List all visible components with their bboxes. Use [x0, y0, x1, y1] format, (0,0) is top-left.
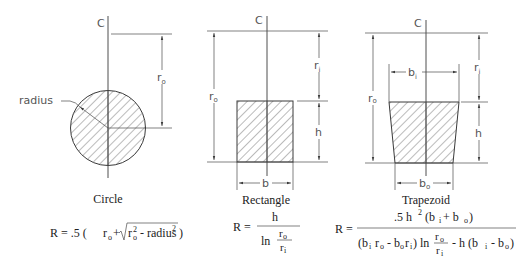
svg-text:): ) [469, 210, 473, 224]
svg-text:+: + [113, 226, 120, 240]
circle-centerline-label: C [97, 17, 105, 30]
svg-text:o: o [505, 242, 509, 251]
svg-text:r: r [435, 230, 439, 242]
svg-text:.5 h: .5 h [394, 210, 412, 224]
svg-text:r: r [103, 226, 107, 240]
trapezoid-section: C bi ro ri h bo Trapezoid [335, 17, 516, 258]
svg-text:): ) [510, 236, 514, 250]
radius-formulas-diagram: C ro radius Circle R = .5 ( r o + r 2 o … [0, 0, 532, 271]
circle-formula: R = .5 ( r o + r 2 o - radius 2 ) [50, 223, 183, 242]
rectangle-caption: Rectangle [242, 193, 290, 207]
rectangle-centerline-label: C [255, 14, 263, 27]
svg-text:h: h [272, 210, 278, 224]
circle-caption: Circle [93, 192, 122, 206]
svg-text:R =: R = [233, 220, 251, 234]
svg-text:- b: - b [384, 236, 400, 250]
circle-section: C ro radius Circle R = .5 ( r o + r 2 o … [19, 16, 183, 242]
svg-text:i: i [284, 246, 287, 255]
svg-text:ln: ln [261, 234, 270, 248]
rectangle-formula: R = h ln r o r i [233, 210, 300, 255]
svg-text:ln: ln [420, 236, 429, 250]
trapezoid-centerline-label: C [414, 17, 422, 30]
svg-text:- h (b: - h (b [452, 236, 478, 250]
trapezoid-caption: Trapezoid [402, 193, 450, 207]
svg-text:+ b: + b [443, 210, 459, 224]
trapezoid-formula: R = .5 h 2 (b i + b o ) (b i r o - b o r… [335, 208, 516, 258]
svg-text:r: r [436, 244, 440, 256]
rectangle-section: C ro ri h b Rectangle R = h ln [207, 14, 328, 255]
svg-text:2: 2 [172, 224, 176, 233]
svg-text:o: o [108, 233, 112, 242]
svg-text:R =: R = [335, 222, 353, 236]
svg-text:r: r [128, 226, 132, 240]
svg-text:- b: - b [488, 236, 504, 250]
svg-text:o: o [400, 242, 404, 251]
rectangle-h-label: h [315, 126, 322, 139]
svg-text:): ) [179, 226, 183, 240]
svg-text:r: r [405, 236, 409, 250]
svg-text:(b: (b [422, 210, 435, 224]
svg-text:- radius: - radius [137, 226, 177, 240]
svg-text:i: i [441, 249, 444, 258]
trapezoid-h-label: h [475, 127, 482, 140]
rectangle-b-label: b [262, 177, 269, 190]
radius-label: radius [19, 94, 53, 107]
svg-text:): ) [413, 236, 417, 250]
svg-text:i: i [439, 216, 442, 225]
svg-text:o: o [464, 216, 468, 225]
trapezoid-shape [389, 102, 459, 163]
rectangle-shape [237, 101, 293, 162]
svg-text:(b: (b [358, 236, 368, 250]
svg-text:r: r [372, 236, 379, 250]
svg-text:R = .5 (: R = .5 ( [50, 226, 87, 240]
